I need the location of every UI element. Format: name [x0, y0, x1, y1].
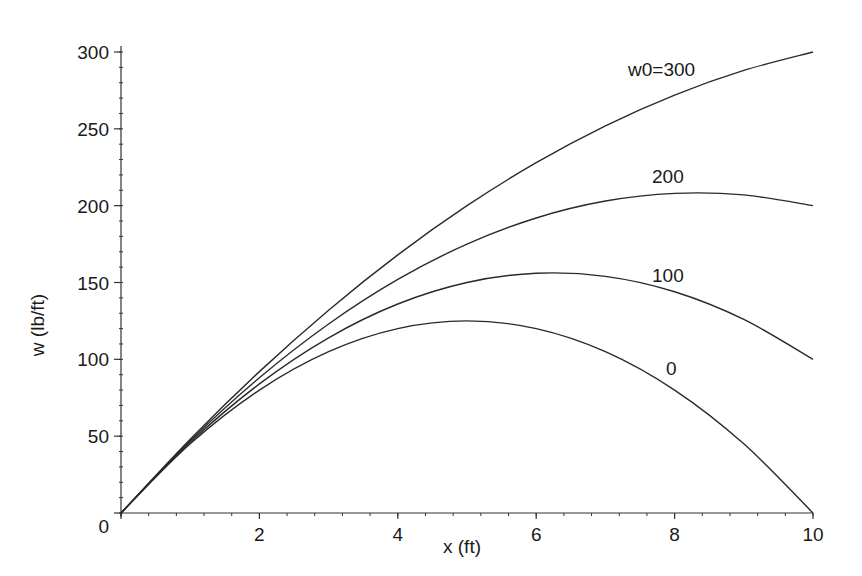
- x-tick-label: 2: [254, 524, 265, 545]
- y-tick-label: 50: [88, 426, 109, 447]
- y-tick-label: 250: [77, 119, 109, 140]
- y-tick-label: 200: [77, 196, 109, 217]
- x-axis-title: x (ft): [443, 536, 481, 557]
- chart: 246810050100150200250300 x (ft) w (lb/ft…: [0, 0, 862, 576]
- x-tick-label: 10: [802, 524, 823, 545]
- curves: [121, 52, 813, 513]
- labels: x (ft) w (lb/ft) w0=300 200 100 0: [27, 59, 695, 557]
- y-tick-label: 0: [98, 516, 109, 537]
- curve-w0-200: [121, 193, 813, 513]
- x-tick-label: 6: [531, 524, 542, 545]
- y-tick-label: 100: [77, 349, 109, 370]
- x-tick-label: 4: [393, 524, 404, 545]
- y-axis-title: w (lb/ft): [27, 294, 48, 357]
- axes: 246810050100150200250300: [77, 42, 823, 545]
- y-tick-label: 150: [77, 273, 109, 294]
- curve-label-w0-200: 200: [652, 166, 684, 187]
- curve-label-w0-300: w0=300: [627, 59, 695, 80]
- curve-label-w0-0: 0: [666, 358, 677, 379]
- y-tick-label: 300: [77, 42, 109, 63]
- curve-w0-100: [121, 273, 813, 513]
- curve-w0-0: [121, 321, 813, 513]
- curve-label-w0-100: 100: [652, 265, 684, 286]
- x-tick-label: 8: [669, 524, 680, 545]
